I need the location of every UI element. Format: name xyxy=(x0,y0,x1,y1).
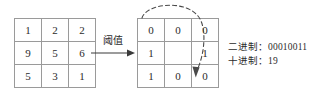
matrix-cell: 9 xyxy=(15,42,42,65)
matrix-cell: 5 xyxy=(15,65,42,88)
matrix-cell: 3 xyxy=(42,65,69,88)
binary-readout: 二进制：00010011 xyxy=(228,40,323,54)
decimal-label: 十进制： xyxy=(228,55,268,66)
table-row: 9 5 6 xyxy=(15,42,96,65)
matrix-cell: 2 xyxy=(42,19,69,42)
table-row: 1 2 2 xyxy=(15,19,96,42)
binary-label: 二进制： xyxy=(228,41,268,52)
table-row: 5 3 1 xyxy=(15,65,96,88)
binary-value: 00010011 xyxy=(268,42,307,52)
matrix-cell: 1 xyxy=(69,65,96,88)
right-arrow-icon xyxy=(90,47,136,59)
pixel-value-matrix: 1 2 2 9 5 6 5 3 1 xyxy=(14,18,96,88)
threshold-label: 阈值 xyxy=(103,32,123,47)
lbp-readout: 二进制：00010011 十进制：19 xyxy=(228,40,323,68)
threshold-step: 阈值 xyxy=(90,32,136,60)
decimal-readout: 十进制：19 xyxy=(228,54,323,68)
matrix-cell-center: 5 xyxy=(42,42,69,65)
matrix-cell: 1 xyxy=(15,19,42,42)
decimal-value: 19 xyxy=(268,56,278,66)
curved-dashed-arrow-icon xyxy=(136,2,212,80)
lbp-diagram: 1 2 2 9 5 6 5 3 1 阈值 0 0 0 1 xyxy=(0,0,323,97)
